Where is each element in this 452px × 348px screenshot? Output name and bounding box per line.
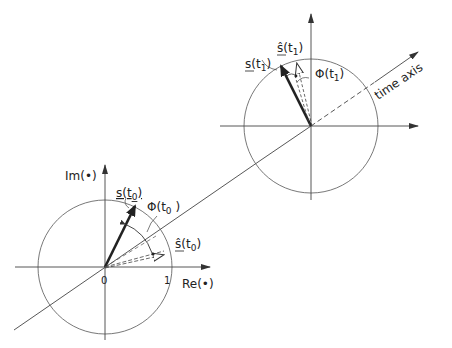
time-axis [14,52,418,330]
phasor-diagram: time axis Im(•) Re(•) 0 1 s(t0) Φ(t0 ) ŝ… [0,0,452,348]
phase-label-t0: Φ(t0 ) [147,200,180,216]
origin-label: 0 [101,275,107,286]
phase-label-t1: Φ(t1) [315,67,344,83]
time-axis-label: time axis [372,60,425,102]
svg-text:s(t0): s(t0) [116,186,142,202]
svg-text:Φ(t1): Φ(t1) [315,67,344,83]
frame-t0 [15,165,210,340]
phasor-label-t0: s(t0) [116,186,142,202]
imag-axis-label-t0: Im(•) [65,169,97,183]
estimate-label-t1: ŝ(t1) [277,41,303,57]
frame-t1 [220,14,418,200]
estimate-phasor-t1 [297,64,312,126]
svg-text:Φ(t0 ): Φ(t0 ) [147,200,180,216]
estimate-label-t0: ŝ(t0) [175,237,201,253]
unit-label: 1 [164,275,170,286]
phasor-label-t1: s(t1) [245,57,271,73]
real-axis-label-t0: Re(•) [182,277,214,291]
